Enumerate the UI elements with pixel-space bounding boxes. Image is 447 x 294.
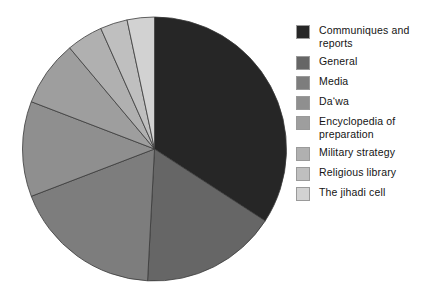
pie-plot-area: [0, 0, 300, 294]
legend-label-dawa: Da‘wa: [319, 95, 349, 108]
legend-swatch-religious-library: [296, 167, 310, 181]
legend-swatch-media: [296, 76, 310, 90]
legend-swatch-the-jihadi-cell: [296, 187, 310, 201]
legend-label-the-jihadi-cell: The jihadi cell: [319, 186, 385, 199]
legend-swatch-communiques-and-reports: [296, 25, 310, 39]
legend-swatch-dawa: [296, 96, 310, 110]
legend-item-communiques-and-reports[interactable]: Communiques and reports: [296, 24, 447, 50]
pie-slice-group: [23, 17, 287, 281]
legend-swatch-military-strategy: [296, 147, 310, 161]
legend-item-general[interactable]: General: [296, 55, 447, 70]
legend-item-religious-library[interactable]: Religious library: [296, 166, 447, 181]
pie-svg: [0, 0, 300, 294]
legend-label-general: General: [319, 55, 357, 68]
chart-legend: Communiques and reports General Media Da…: [296, 24, 447, 286]
legend-label-military-strategy: Military strategy: [319, 146, 395, 159]
legend-item-media[interactable]: Media: [296, 75, 447, 90]
legend-swatch-encyclopedia-of-preparation: [296, 116, 310, 130]
pie-chart-figure: Communiques and reports General Media Da…: [0, 0, 447, 294]
legend-swatch-general: [296, 56, 310, 70]
legend-label-religious-library: Religious library: [319, 166, 396, 179]
legend-item-dawa[interactable]: Da‘wa: [296, 95, 447, 110]
legend-label-encyclopedia-of-preparation: Encyclopedia of preparation: [319, 115, 439, 141]
legend-item-military-strategy[interactable]: Military strategy: [296, 146, 447, 161]
legend-label-communiques-and-reports: Communiques and reports: [319, 24, 439, 50]
legend-label-media: Media: [319, 75, 348, 88]
legend-item-encyclopedia-of-preparation[interactable]: Encyclopedia of preparation: [296, 115, 447, 141]
legend-item-the-jihadi-cell[interactable]: The jihadi cell: [296, 186, 447, 201]
